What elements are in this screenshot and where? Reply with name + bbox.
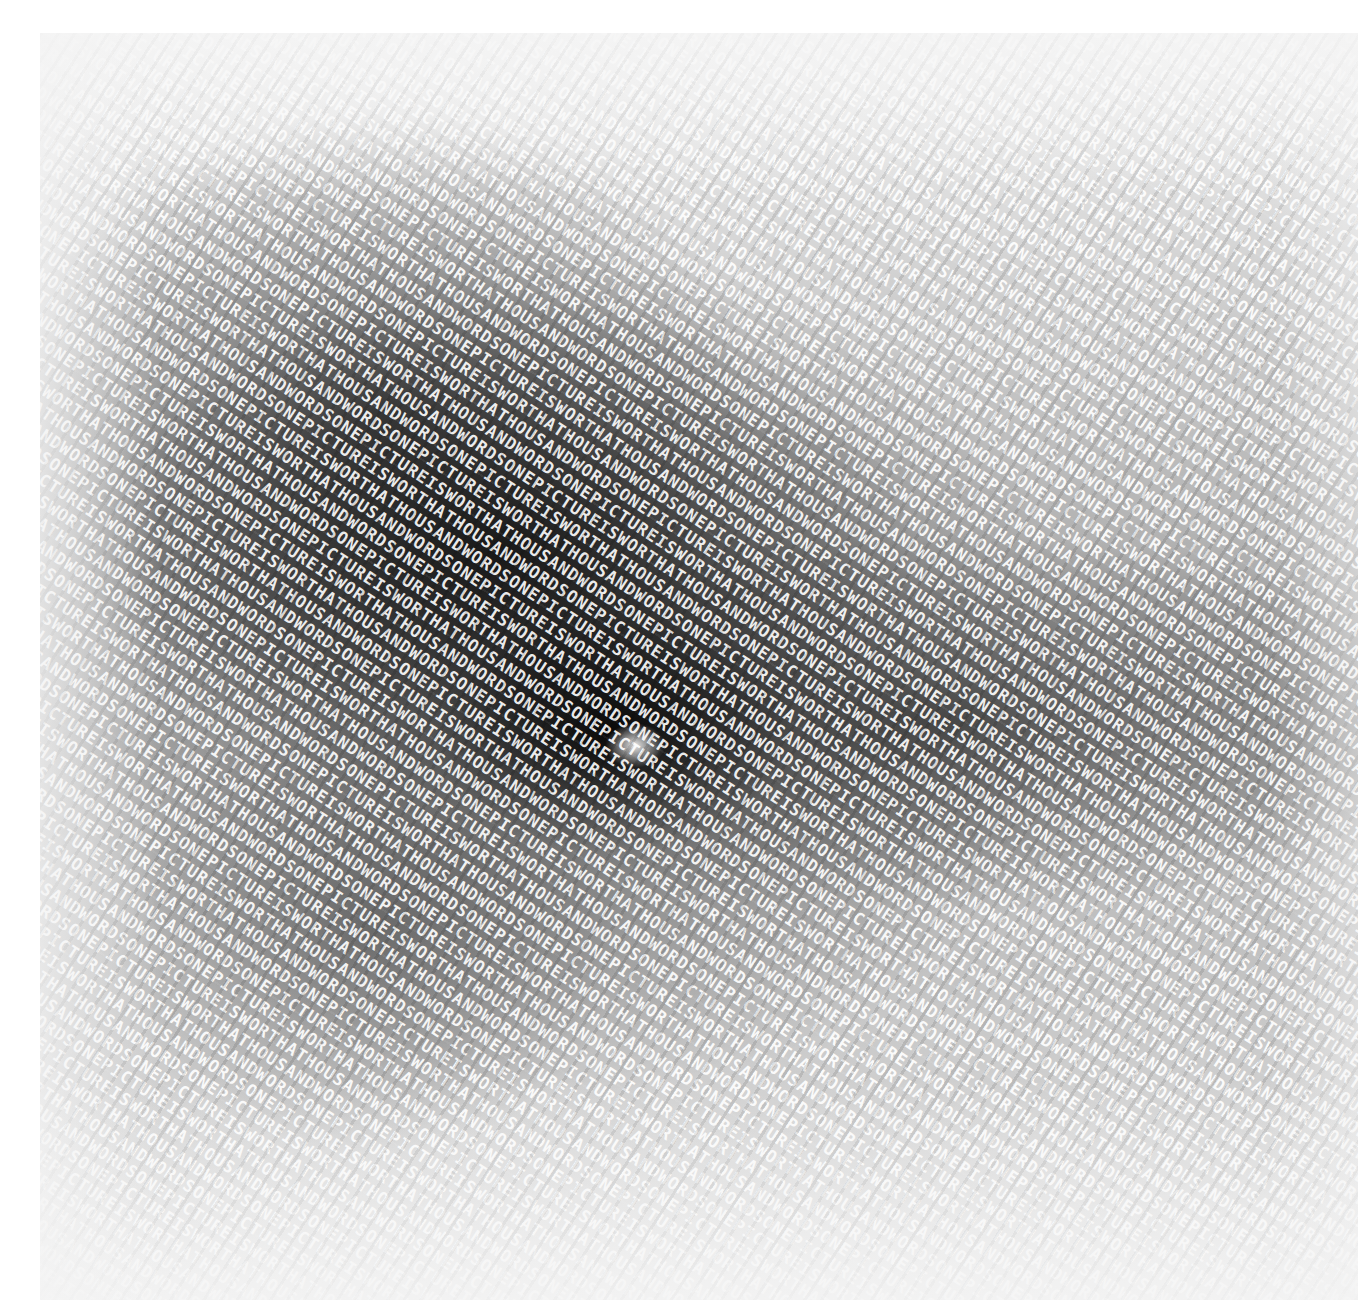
highlight-spot: [605, 723, 665, 768]
text-art-image: ONEPICTUREISWORTHATHOUSANDWORDSONEPICTUR…: [40, 33, 1358, 1300]
repeated-phrase-text-field: ONEPICTUREISWORTHATHOUSANDWORDSONEPICTUR…: [40, 33, 1358, 1300]
